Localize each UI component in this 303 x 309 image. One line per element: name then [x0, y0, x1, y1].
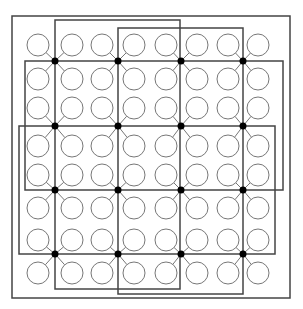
circle-element — [186, 197, 208, 219]
circle-element — [155, 97, 177, 119]
circle-element — [123, 34, 145, 56]
circle-element — [27, 229, 49, 251]
junction-node — [115, 58, 122, 65]
circle-element — [155, 197, 177, 219]
junction-node — [115, 251, 122, 258]
circle-element — [247, 229, 269, 251]
junction-node — [52, 58, 59, 65]
junction-node — [115, 123, 122, 130]
circle-element — [27, 34, 49, 56]
circle-element — [186, 164, 208, 186]
junction-node — [178, 187, 185, 194]
circle-element — [155, 262, 177, 284]
circle-element — [247, 197, 269, 219]
circle-element — [186, 262, 208, 284]
circle-element — [27, 97, 49, 119]
junction-node — [240, 251, 247, 258]
circle-element — [61, 97, 83, 119]
circle-element — [155, 135, 177, 157]
circle-element — [61, 197, 83, 219]
circle-element — [27, 164, 49, 186]
circle-element — [61, 262, 83, 284]
circle-element — [91, 34, 113, 56]
circle-element — [27, 197, 49, 219]
circle-element — [123, 229, 145, 251]
circle-element — [91, 262, 113, 284]
circle-element — [186, 34, 208, 56]
circle-element — [217, 197, 239, 219]
circle-element — [186, 97, 208, 119]
circle-element — [247, 262, 269, 284]
junction-node — [178, 123, 185, 130]
circle-element — [186, 68, 208, 90]
circle-element — [217, 229, 239, 251]
circle-element — [155, 164, 177, 186]
circle-element — [61, 135, 83, 157]
circle-element — [123, 97, 145, 119]
junction-node — [115, 187, 122, 194]
circle-element — [186, 229, 208, 251]
circle-element — [217, 97, 239, 119]
circle-element — [247, 135, 269, 157]
circle-element — [217, 164, 239, 186]
circle-element — [155, 34, 177, 56]
circle-element — [91, 164, 113, 186]
circle-element — [123, 262, 145, 284]
circle-element — [61, 164, 83, 186]
circle-element — [217, 34, 239, 56]
circle-element — [91, 97, 113, 119]
circle-element — [27, 68, 49, 90]
circle-element — [217, 68, 239, 90]
junction-node — [52, 251, 59, 258]
junction-node — [52, 123, 59, 130]
circle-element — [27, 262, 49, 284]
junction-node — [178, 251, 185, 258]
junction-node — [240, 123, 247, 130]
circle-element — [27, 135, 49, 157]
circle-element — [155, 229, 177, 251]
circle-element — [61, 229, 83, 251]
circle-element — [123, 197, 145, 219]
circle-element — [61, 68, 83, 90]
circle-element — [123, 164, 145, 186]
junction-node — [240, 58, 247, 65]
circle-element — [247, 34, 269, 56]
circle-element — [91, 197, 113, 219]
circle-element — [61, 34, 83, 56]
circle-element — [186, 135, 208, 157]
circle-element — [247, 97, 269, 119]
circle-element — [217, 262, 239, 284]
circle-element — [247, 164, 269, 186]
junction-node — [52, 187, 59, 194]
circle-element — [123, 68, 145, 90]
circle-element — [123, 135, 145, 157]
circle-element — [91, 229, 113, 251]
circle-element — [155, 68, 177, 90]
circle-element — [247, 68, 269, 90]
circle-element — [91, 68, 113, 90]
circle-element — [91, 135, 113, 157]
circle-element — [217, 135, 239, 157]
grid-network-diagram — [0, 0, 303, 309]
junction-node — [240, 187, 247, 194]
junction-node — [178, 58, 185, 65]
